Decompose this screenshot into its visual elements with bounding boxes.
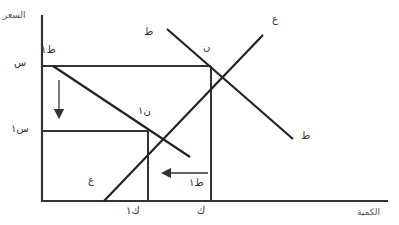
supply-label-top: ع — [272, 14, 278, 24]
demand-curve — [167, 29, 293, 139]
equilibrium-low-label: ن١ — [138, 106, 151, 116]
price-low-label: س١ — [11, 124, 29, 134]
shifted-demand-arrow-label: ط١ — [189, 178, 204, 188]
shifted-demand-label: ط١ — [41, 45, 56, 55]
qty-high-label: ك — [197, 206, 205, 216]
supply-curve — [104, 35, 263, 201]
qty-low-label: ك١ — [126, 206, 140, 216]
supply-demand-diagram — [0, 0, 399, 225]
price-high-label: س — [14, 58, 26, 68]
supply-label-bottom: ع — [88, 175, 94, 185]
equilibrium-high-label: ن — [203, 42, 210, 52]
demand-label-top: ط — [144, 27, 153, 37]
x-axis-label: الكمية — [357, 208, 380, 217]
demand-label-right: ط — [301, 131, 310, 141]
y-axis-label: السعر — [3, 11, 26, 20]
shifted-demand-curve — [53, 66, 190, 157]
